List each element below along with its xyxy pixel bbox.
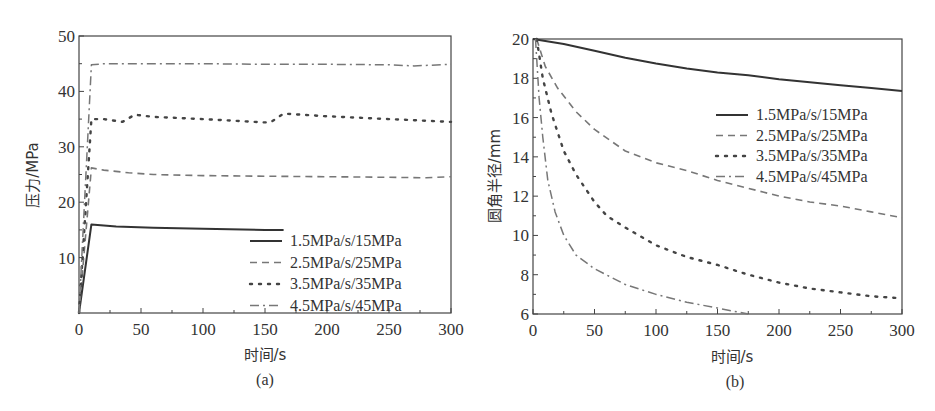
legend-label: 3.5MPa/s/35MPa <box>290 275 402 292</box>
legend-label: 1.5MPa/s/15MPa <box>290 232 402 249</box>
y-tick-label: 10 <box>58 249 75 268</box>
y-axis-ticks: 68101214161820 <box>512 30 538 324</box>
y-axis-ticks: 1020304050 <box>58 27 84 285</box>
x-tick-label: 300 <box>438 320 464 339</box>
chart-panel-b: 050100150200250300 68101214161820 1.5MPa… <box>486 30 915 391</box>
legend-label: 2.5MPa/s/25MPa <box>756 127 868 144</box>
legend: 1.5MPa/s/15MPa2.5MPa/s/25MPa3.5MPa/s/35M… <box>716 106 868 185</box>
legend-label: 3.5MPa/s/35MPa <box>756 147 868 164</box>
x-tick-label: 200 <box>766 321 792 340</box>
x-tick-label: 150 <box>705 321 731 340</box>
y-tick-label: 6 <box>521 305 530 324</box>
y-tick-label: 20 <box>58 193 75 212</box>
y-axis-title: 圆角半径/mm <box>486 129 504 223</box>
legend: 1.5MPa/s/15MPa2.5MPa/s/25MPa3.5MPa/s/35M… <box>250 232 402 314</box>
y-tick-label: 14 <box>512 148 530 167</box>
x-axis-title: 时间/s <box>244 346 287 364</box>
y-tick-label: 10 <box>512 226 529 245</box>
panel-label: (a) <box>256 371 274 389</box>
series-line <box>79 224 284 313</box>
legend-label: 2.5MPa/s/25MPa <box>290 254 402 271</box>
x-tick-label: 250 <box>376 320 402 339</box>
x-tick-label: 100 <box>643 321 669 340</box>
y-axis-title: 压力/MPa <box>24 142 42 208</box>
series-line <box>533 39 902 91</box>
x-tick-label: 50 <box>133 320 150 339</box>
plot-area-frame <box>79 36 451 313</box>
chart-panel-a: 050100150200250300 1020304050 1.5MPa/s/1… <box>24 27 464 389</box>
x-tick-label: 150 <box>252 320 278 339</box>
x-tick-label: 50 <box>586 321 603 340</box>
y-tick-label: 8 <box>521 266 530 285</box>
x-tick-label: 300 <box>889 321 915 340</box>
y-tick-label: 40 <box>58 82 75 101</box>
figure: 050100150200250300 1020304050 1.5MPa/s/1… <box>0 0 935 411</box>
y-tick-label: 20 <box>512 30 529 49</box>
x-tick-label: 100 <box>190 320 216 339</box>
x-tick-label: 250 <box>828 321 854 340</box>
legend-label: 4.5MPa/s/45MPa <box>756 168 868 185</box>
legend-label: 1.5MPa/s/15MPa <box>756 106 868 123</box>
y-tick-label: 30 <box>58 138 75 157</box>
x-tick-label: 0 <box>529 321 538 340</box>
x-axis-title: 时间/s <box>711 348 754 366</box>
x-tick-label: 200 <box>314 320 340 339</box>
x-tick-label: 0 <box>75 320 84 339</box>
panel-label: (b) <box>726 373 745 391</box>
y-tick-label: 12 <box>512 187 529 206</box>
y-tick-label: 16 <box>512 109 529 128</box>
y-tick-label: 18 <box>512 69 529 88</box>
y-tick-label: 50 <box>58 27 75 46</box>
legend-label: 4.5MPa/s/45MPa <box>290 297 402 314</box>
